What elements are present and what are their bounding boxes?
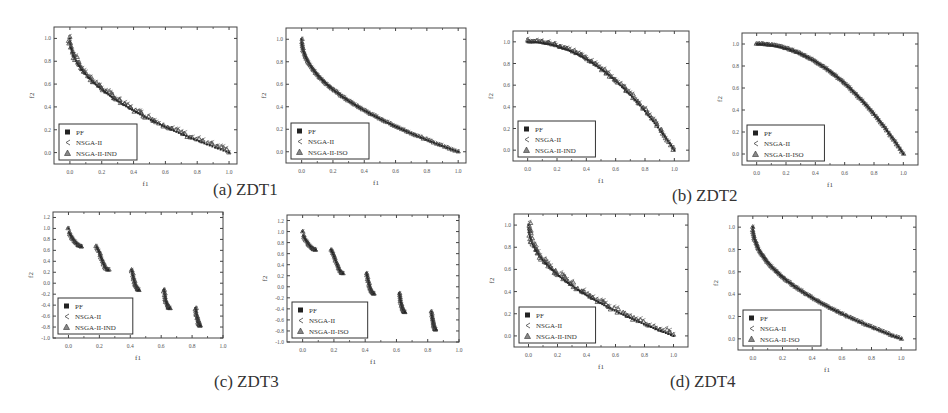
y-axis-label: f2 — [487, 93, 495, 99]
legend-entry: PF — [536, 312, 544, 320]
y-tick-label: 0.0 — [43, 280, 50, 286]
y-tick-label: -1.0 — [41, 335, 50, 341]
y-axis-label: f2 — [260, 92, 268, 98]
y-axis-label: f2 — [27, 272, 35, 278]
x-tick-label: 0.6 — [393, 347, 400, 353]
x-tick-label: 1.0 — [671, 166, 678, 172]
y-tick-label: 1.0 — [44, 35, 51, 41]
y-tick-label: 1.0 — [728, 224, 735, 230]
x-axis-label: f1 — [824, 366, 830, 374]
y-tick-label: -0.8 — [275, 328, 284, 334]
caption-c: (c) ZDT3 — [214, 372, 279, 392]
y-tick-label: 0.2 — [43, 269, 50, 275]
x-tick-label: 0.8 — [868, 355, 875, 361]
x-axis-label: f1 — [598, 363, 604, 371]
legend: PFNSGA-IINSGA-II-IND — [518, 121, 595, 157]
y-tick-label: -0.2 — [275, 295, 284, 301]
y-tick-label: 0.8 — [732, 63, 739, 69]
chart-zdt1-iso: 0.00.20.40.60.81.00.00.20.40.60.81.0f1f2… — [286, 28, 466, 163]
y-tick-label: 0.0 — [732, 151, 739, 157]
chart-zdt2-ind: 0.00.20.40.60.81.00.00.20.40.60.81.0f1f2… — [513, 31, 689, 161]
y-tick-label: 0.4 — [504, 289, 511, 295]
x-tick-label: 0.4 — [127, 343, 134, 349]
x-tick-label: 1.0 — [456, 347, 463, 353]
legend-entry: NSGA-II-IND — [76, 150, 117, 158]
y-tick-label: 0.0 — [44, 150, 51, 156]
y-tick-label: 0.8 — [277, 240, 284, 246]
y-tick-label: 0.4 — [277, 262, 284, 268]
x-tick-label: 0.2 — [779, 355, 786, 361]
legend-entry: NSGA-II-IND — [536, 333, 577, 341]
legend-entry: PF — [76, 129, 84, 137]
x-tick-label: 0.0 — [524, 166, 531, 172]
y-tick-label: 0.2 — [276, 126, 283, 132]
y-tick-label: 0.0 — [277, 284, 284, 290]
legend: PFNSGA-IINSGA-II-IND — [519, 307, 596, 343]
y-tick-label: 1.0 — [503, 39, 510, 45]
x-tick-label: 0.2 — [96, 343, 103, 349]
legend-entry: NSGA-II-IND — [75, 324, 116, 332]
legend-entry: NSGA-II — [535, 136, 562, 144]
legend: PFNSGA-IINSGA-II-IND — [58, 298, 133, 334]
x-axis-label: f1 — [827, 181, 833, 189]
y-tick-label: 1.2 — [43, 214, 50, 220]
y-tick-label: 0.0 — [503, 147, 510, 153]
y-tick-label: -1.0 — [275, 339, 284, 345]
x-tick-label: 0.6 — [392, 168, 399, 174]
y-tick-label: 0.6 — [277, 251, 284, 257]
y-axis-label: f2 — [261, 275, 269, 281]
y-tick-label: 0.2 — [504, 311, 511, 317]
y-tick-label: 1.0 — [43, 225, 50, 231]
y-tick-label: 1.0 — [732, 41, 739, 47]
x-tick-label: 0.0 — [753, 170, 760, 176]
legend-entry: NSGA-II — [309, 317, 336, 325]
y-tick-label: 0.8 — [44, 58, 51, 64]
y-tick-label: -0.6 — [275, 317, 284, 323]
chart-zdt4-ind: 0.00.20.40.60.81.00.00.20.40.60.81.0f1f2… — [514, 214, 688, 347]
y-tick-label: 0.8 — [276, 59, 283, 65]
x-tick-label: 0.4 — [583, 352, 590, 358]
legend-entry: NSGA-II — [75, 313, 102, 321]
x-tick-label: 0.2 — [783, 170, 790, 176]
y-tick-label: 1.0 — [277, 229, 284, 235]
x-tick-label: 0.0 — [749, 355, 756, 361]
legend-entry: PF — [535, 126, 543, 134]
legend-entry: PF — [308, 128, 316, 136]
x-axis-label: f1 — [373, 179, 379, 187]
x-tick-label: 0.6 — [158, 343, 165, 349]
legend-entry: PF — [75, 303, 83, 311]
x-tick-label: 0.0 — [299, 347, 306, 353]
y-tick-label: 0.0 — [276, 149, 283, 155]
y-tick-label: 0.0 — [504, 333, 511, 339]
x-tick-label: 0.4 — [362, 347, 369, 353]
x-tick-label: 0.6 — [612, 352, 619, 358]
x-tick-label: 0.2 — [554, 166, 561, 172]
x-tick-label: 0.6 — [841, 170, 848, 176]
x-tick-label: 0.0 — [298, 168, 305, 174]
x-tick-label: 0.8 — [194, 169, 201, 175]
legend: PFNSGA-IINSGA-II-ISO — [292, 302, 368, 338]
y-tick-label: 0.6 — [276, 81, 283, 87]
x-tick-label: 1.0 — [670, 352, 677, 358]
y-axis-label: f2 — [28, 92, 36, 98]
y-tick-label: 0.2 — [728, 314, 735, 320]
x-tick-label: 0.4 — [583, 166, 590, 172]
x-tick-label: 0.2 — [554, 352, 561, 358]
x-tick-label: 0.6 — [838, 355, 845, 361]
y-tick-label: 0.6 — [504, 266, 511, 272]
legend-entry: NSGA-II — [308, 138, 335, 146]
y-tick-label: 0.6 — [43, 247, 50, 253]
legend-entry: PF — [309, 307, 317, 315]
y-axis-label: f2 — [488, 277, 496, 283]
chart-zdt3-iso: 0.00.20.40.60.81.0-1.0-0.8-0.6-0.4-0.20.… — [287, 215, 459, 342]
y-tick-label: 0.4 — [276, 104, 283, 110]
x-tick-label: 0.8 — [424, 347, 431, 353]
y-axis-label: f2 — [716, 96, 724, 102]
x-tick-label: 1.0 — [220, 343, 227, 349]
legend-entry: NSGA-II — [76, 139, 103, 147]
y-tick-label: 0.4 — [43, 258, 50, 264]
y-tick-label: 0.4 — [728, 291, 735, 297]
legend-entry: NSGA-II-ISO — [308, 149, 348, 157]
x-tick-label: 0.4 — [812, 170, 819, 176]
y-axis-label: f2 — [712, 280, 720, 286]
